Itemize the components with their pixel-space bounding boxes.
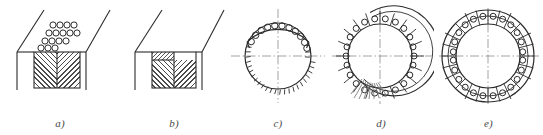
hopper-right-wall-a — [80, 10, 110, 90]
roller-set-c — [248, 23, 310, 52]
figure-panel-a: a) — [0, 0, 120, 135]
surface-ticks-c — [246, 47, 316, 95]
figure-panel-d: d) — [328, 0, 434, 135]
figure-plate: a) — [0, 0, 543, 135]
figure-caption-c: c) — [228, 117, 328, 129]
figure-caption-b: b) — [120, 117, 228, 129]
figure-e-drawing — [434, 0, 543, 112]
figure-c-drawing — [228, 0, 328, 112]
figure-caption-e: e) — [434, 117, 543, 129]
figure-panel-c: c) — [228, 0, 328, 135]
figure-b-drawing — [120, 0, 228, 112]
hopper-right-wall-b — [196, 10, 224, 90]
granule-pile-a — [38, 22, 80, 51]
figure-panel-e: e) — [434, 0, 543, 135]
figure-d-drawing — [328, 0, 434, 112]
figure-a-drawing — [0, 0, 120, 112]
figure-panel-b: b) — [120, 0, 228, 135]
figure-caption-d: d) — [328, 117, 434, 129]
figure-caption-a: a) — [0, 117, 120, 129]
